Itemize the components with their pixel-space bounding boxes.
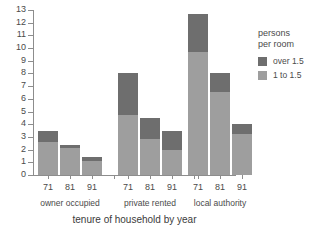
legend-entries: over 1.51 to 1.5 bbox=[258, 57, 320, 80]
bar-owner-occupied-71 bbox=[38, 131, 58, 175]
x-tick-label-private-rented-81: 81 bbox=[138, 182, 162, 192]
y-tick-label-0: 0 bbox=[0, 170, 26, 179]
x-tick-local-authority-71 bbox=[198, 175, 199, 179]
x-axis-title: tenure of household by year bbox=[33, 214, 236, 226]
y-tick-9 bbox=[28, 61, 33, 62]
group-label-owner-occupied: owner occupied bbox=[30, 198, 110, 208]
legend: persons per room over 1.51 to 1.5 bbox=[258, 28, 320, 85]
group-label-local-authority: local authority bbox=[180, 198, 260, 208]
y-tick-label-2: 2 bbox=[0, 145, 26, 154]
bar-segment-1-to-1-5 bbox=[232, 134, 252, 175]
legend-swatch-icon-1 bbox=[258, 71, 267, 80]
y-tick-label-10: 10 bbox=[0, 43, 26, 52]
bar-segment-1-to-1-5 bbox=[188, 52, 208, 175]
x-tick-local-authority-81 bbox=[220, 175, 221, 179]
bar-owner-occupied-91 bbox=[82, 157, 102, 175]
legend-title-line2: per room bbox=[258, 39, 320, 50]
bar-owner-occupied-81 bbox=[60, 145, 80, 175]
bar-segment-over-1-5 bbox=[38, 131, 58, 142]
x-tick-label-private-rented-71: 71 bbox=[116, 182, 140, 192]
x-tick-label-owner-occupied-71: 71 bbox=[36, 182, 60, 192]
x-tick-local-authority-91 bbox=[242, 175, 243, 179]
x-tick-label-local-authority-81: 81 bbox=[208, 182, 232, 192]
y-tick-10 bbox=[28, 48, 33, 49]
bar-segment-1-to-1-5 bbox=[118, 115, 138, 175]
bar-segment-over-1-5 bbox=[188, 14, 208, 52]
bar-local-authority-71 bbox=[188, 14, 208, 175]
bar-segment-1-to-1-5 bbox=[82, 161, 102, 175]
bar-segment-1-to-1-5 bbox=[38, 142, 58, 175]
bar-local-authority-81 bbox=[210, 73, 230, 175]
y-tick-label-1: 1 bbox=[0, 157, 26, 166]
x-tick-label-local-authority-71: 71 bbox=[186, 182, 210, 192]
bar-local-authority-91 bbox=[232, 124, 252, 175]
x-group-separator-tick-0 bbox=[114, 175, 115, 179]
y-tick-label-9: 9 bbox=[0, 56, 26, 65]
group-label-private-rented: private rented bbox=[110, 198, 190, 208]
y-tick-6 bbox=[28, 99, 33, 100]
legend-entry-1: 1 to 1.5 bbox=[258, 71, 320, 80]
y-tick-1 bbox=[28, 162, 33, 163]
bar-private-rented-71 bbox=[118, 73, 138, 175]
bar-segment-1-to-1-5 bbox=[60, 148, 80, 175]
bar-segment-over-1-5 bbox=[118, 73, 138, 115]
x-tick-private-rented-91 bbox=[172, 175, 173, 179]
y-tick-label-4: 4 bbox=[0, 119, 26, 128]
bar-segment-over-1-5 bbox=[140, 118, 160, 140]
y-tick-4 bbox=[28, 124, 33, 125]
y-tick-label-11: 11 bbox=[0, 30, 26, 39]
y-tick-label-6: 6 bbox=[0, 94, 26, 103]
legend-title-line1: persons bbox=[258, 28, 320, 39]
y-axis-line bbox=[33, 10, 34, 175]
bar-segment-over-1-5 bbox=[210, 73, 230, 92]
y-tick-7 bbox=[28, 86, 33, 87]
x-tick-label-owner-occupied-91: 91 bbox=[80, 182, 104, 192]
x-tick-label-local-authority-91: 91 bbox=[230, 182, 254, 192]
y-tick-label-13: 13 bbox=[0, 5, 26, 14]
x-axis-line bbox=[33, 175, 236, 176]
y-tick-11 bbox=[28, 35, 33, 36]
x-tick-owner-occupied-81 bbox=[70, 175, 71, 179]
bar-segment-over-1-5 bbox=[232, 124, 252, 134]
y-tick-label-5: 5 bbox=[0, 107, 26, 116]
bar-private-rented-81 bbox=[140, 118, 160, 175]
x-tick-owner-occupied-91 bbox=[92, 175, 93, 179]
x-tick-owner-occupied-71 bbox=[48, 175, 49, 179]
x-tick-private-rented-81 bbox=[150, 175, 151, 179]
y-tick-label-8: 8 bbox=[0, 68, 26, 77]
y-tick-12 bbox=[28, 23, 33, 24]
y-tick-label-12: 12 bbox=[0, 18, 26, 27]
bar-segment-over-1-5 bbox=[162, 131, 182, 150]
y-tick-13 bbox=[28, 10, 33, 11]
bar-segment-1-to-1-5 bbox=[162, 150, 182, 175]
x-tick-private-rented-71 bbox=[128, 175, 129, 179]
legend-label-0: over 1.5 bbox=[273, 57, 304, 66]
bar-chart: 012345678910111213 718191718191718191 ow… bbox=[0, 0, 320, 240]
y-tick-label-3: 3 bbox=[0, 132, 26, 141]
y-tick-label-7: 7 bbox=[0, 81, 26, 90]
bar-private-rented-91 bbox=[162, 131, 182, 175]
x-tick-label-owner-occupied-81: 81 bbox=[58, 182, 82, 192]
x-group-separator-tick-1 bbox=[194, 175, 195, 179]
legend-label-1: 1 to 1.5 bbox=[273, 71, 301, 80]
y-tick-3 bbox=[28, 137, 33, 138]
y-tick-2 bbox=[28, 150, 33, 151]
legend-entry-0: over 1.5 bbox=[258, 57, 320, 66]
x-tick-label-private-rented-91: 91 bbox=[160, 182, 184, 192]
bar-segment-1-to-1-5 bbox=[140, 139, 160, 175]
legend-swatch-icon-0 bbox=[258, 57, 267, 66]
y-tick-5 bbox=[28, 112, 33, 113]
y-tick-8 bbox=[28, 73, 33, 74]
bar-segment-1-to-1-5 bbox=[210, 92, 230, 175]
